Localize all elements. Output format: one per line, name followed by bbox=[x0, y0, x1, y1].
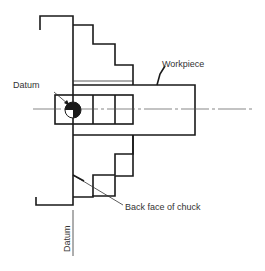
workpiece-outline bbox=[73, 85, 195, 135]
chuck-workpiece-diagram: Workpiece Datum Back face of chuck Datum bbox=[0, 0, 265, 271]
upper-jaw bbox=[73, 25, 133, 85]
datum-label-bottom: Datum bbox=[62, 225, 72, 252]
back-face-leader-thick bbox=[73, 175, 84, 181]
back-face-label: Back face of chuck bbox=[125, 202, 201, 212]
lower-jaw-steps bbox=[93, 135, 133, 196]
lower-jaw bbox=[73, 135, 133, 197]
datum-label-top: Datum bbox=[13, 80, 40, 90]
workpiece-label: Workpiece bbox=[162, 59, 204, 69]
